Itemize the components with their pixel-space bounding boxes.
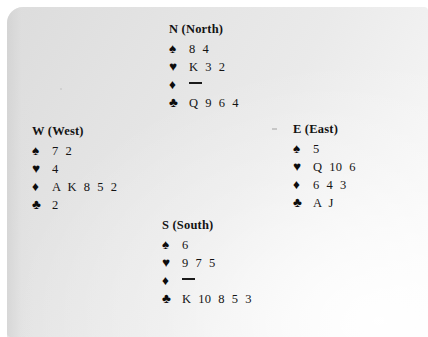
- hand-east-title: E (East): [293, 122, 356, 137]
- hand-east-hearts: Q 10 6: [313, 158, 356, 176]
- hand-north-spades: 8 4: [189, 40, 209, 58]
- club-icon: ♣: [162, 290, 182, 308]
- hand-west-hearts: 4: [52, 160, 59, 178]
- hand-south-diamonds: [182, 272, 195, 290]
- hand-east-diamonds-row: ♦ 6 4 3: [293, 176, 356, 194]
- hand-west-diamonds: A K 8 5 2: [52, 178, 117, 196]
- hand-south-title: S (South): [162, 218, 252, 233]
- hand-east-spades-row: ♠ 5: [293, 140, 356, 158]
- spade-icon: ♠: [162, 236, 182, 254]
- hand-east: E (East) ♠ 5 ♥ Q 10 6 ♦ 6 4 3 ♣ A J: [293, 122, 356, 212]
- hand-south-clubs-row: ♣ K 10 8 5 3: [162, 290, 252, 308]
- hand-east-clubs: A J: [313, 194, 334, 212]
- hand-west-diamonds-row: ♦ A K 8 5 2: [32, 178, 117, 196]
- hand-north-spades-row: ♠ 8 4: [169, 40, 239, 58]
- diamond-icon: ♦: [162, 272, 182, 290]
- hand-east-clubs-row: ♣ A J: [293, 194, 356, 212]
- hand-south-spades: 6: [182, 236, 189, 254]
- void-dash-icon: [182, 278, 195, 280]
- hand-west: W (West) ♠ 7 2 ♥ 4 ♦ A K 8 5 2 ♣ 2: [32, 124, 117, 214]
- bridge-hand-diagram-page: N (North) ♠ 8 4 ♥ K 3 2 ♦ ♣ Q 9 6 4 W (W…: [0, 0, 428, 337]
- club-icon: ♣: [169, 94, 189, 112]
- club-icon: ♣: [293, 194, 313, 212]
- spade-icon: ♠: [32, 142, 52, 160]
- hand-east-hearts-row: ♥ Q 10 6: [293, 158, 356, 176]
- void-dash-icon: [189, 82, 202, 84]
- hand-south-spades-row: ♠ 6: [162, 236, 252, 254]
- hand-north-clubs-row: ♣ Q 9 6 4: [169, 94, 239, 112]
- hand-north-clubs: Q 9 6 4: [189, 94, 239, 112]
- hand-north-diamonds-row: ♦: [169, 76, 239, 94]
- hand-north: N (North) ♠ 8 4 ♥ K 3 2 ♦ ♣ Q 9 6 4: [169, 22, 239, 112]
- hand-south: S (South) ♠ 6 ♥ 9 7 5 ♦ ♣ K 10 8 5 3: [162, 218, 252, 308]
- hand-west-spades: 7 2: [52, 142, 72, 160]
- heart-icon: ♥: [32, 160, 52, 178]
- hand-south-diamonds-row: ♦: [162, 272, 252, 290]
- hand-west-title: W (West): [32, 124, 117, 139]
- diamond-icon: ♦: [32, 178, 52, 196]
- hand-west-hearts-row: ♥ 4: [32, 160, 117, 178]
- spade-icon: ♠: [293, 140, 313, 158]
- hand-north-hearts-row: ♥ K 3 2: [169, 58, 239, 76]
- hand-south-clubs: K 10 8 5 3: [182, 290, 252, 308]
- hand-north-diamonds: [189, 76, 202, 94]
- hand-south-hearts-row: ♥ 9 7 5: [162, 254, 252, 272]
- hand-east-spades: 5: [313, 140, 320, 158]
- hand-west-clubs: 2: [52, 196, 59, 214]
- spade-icon: ♠: [169, 40, 189, 58]
- hand-north-title: N (North): [169, 22, 239, 37]
- heart-icon: ♥: [162, 254, 182, 272]
- diamond-icon: ♦: [169, 76, 189, 94]
- hand-west-clubs-row: ♣ 2: [32, 196, 117, 214]
- hand-south-hearts: 9 7 5: [182, 254, 216, 272]
- heart-icon: ♥: [293, 158, 313, 176]
- club-icon: ♣: [32, 196, 52, 214]
- heart-icon: ♥: [169, 58, 189, 76]
- hand-west-spades-row: ♠ 7 2: [32, 142, 117, 160]
- hand-east-diamonds: 6 4 3: [313, 176, 347, 194]
- diamond-icon: ♦: [293, 176, 313, 194]
- hand-north-hearts: K 3 2: [189, 58, 225, 76]
